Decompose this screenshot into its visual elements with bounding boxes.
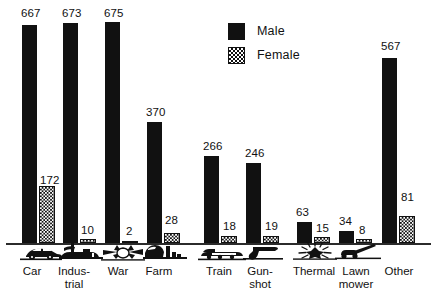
value-label-train-male: 266	[203, 141, 223, 153]
bar-industrial-male	[63, 23, 78, 243]
legend-swatch-female-icon	[228, 47, 245, 64]
bar-chart: Male Female 667 172 Car 673 10	[0, 0, 437, 302]
bar-thermal-male	[297, 222, 312, 243]
value-label-war-female: 2	[126, 226, 133, 238]
flash-burst-icon	[293, 242, 337, 261]
value-label-farm-female: 28	[165, 215, 178, 227]
category-label-other: Other	[377, 265, 421, 278]
value-label-lawnmower-male: 34	[339, 216, 352, 228]
bar-train-male	[204, 156, 219, 243]
legend-swatch-male-icon	[228, 23, 245, 40]
value-label-industrial-female: 10	[81, 225, 94, 237]
value-label-car-female: 172	[40, 175, 60, 187]
handgun-icon	[243, 243, 283, 261]
legend-label-male: Male	[257, 24, 285, 38]
category-label-train: Train	[197, 265, 241, 278]
bar-car-female	[39, 186, 55, 243]
bar-farm-female	[164, 233, 180, 243]
bar-car-male	[22, 25, 37, 243]
lawnmower-icon	[335, 243, 381, 260]
value-label-thermal-male: 63	[296, 207, 309, 219]
legend-item-male: Male	[228, 19, 300, 43]
value-label-thermal-female: 15	[316, 223, 329, 235]
bar-lawnmower-male	[339, 231, 354, 243]
value-label-gunshot-female: 19	[265, 221, 278, 233]
value-label-farm-male: 370	[146, 107, 166, 119]
bar-war-female	[122, 241, 138, 243]
car-icon	[19, 245, 63, 261]
bar-other-male	[382, 58, 397, 243]
category-label-car: Car	[12, 265, 52, 278]
chart-legend: Male Female	[228, 19, 300, 67]
factory-icon	[59, 243, 103, 261]
bar-train-female	[221, 236, 237, 243]
value-label-train-female: 18	[223, 221, 236, 233]
legend-item-female: Female	[228, 43, 300, 67]
value-label-lawnmower-female: 8	[359, 225, 366, 237]
value-label-war-male: 675	[104, 8, 124, 20]
bar-other-female	[399, 216, 415, 243]
category-label-farm: Farm	[138, 265, 180, 278]
category-label-gunshot: Gun- shot	[238, 265, 282, 290]
category-label-war: War	[98, 265, 138, 278]
bar-war-male	[105, 22, 120, 243]
barn-icon	[143, 243, 187, 261]
category-label-industrial: Indus- trial	[52, 265, 96, 290]
value-label-other-female: 81	[401, 192, 414, 204]
bar-farm-male	[147, 122, 162, 243]
bar-gunshot-male	[246, 163, 261, 243]
train-icon	[198, 245, 246, 261]
explosion-icon	[101, 244, 145, 261]
value-label-other-male: 567	[381, 41, 401, 53]
value-label-industrial-male: 673	[62, 8, 82, 20]
legend-label-female: Female	[257, 48, 300, 62]
bar-gunshot-female	[263, 236, 279, 243]
value-label-gunshot-male: 246	[245, 148, 265, 160]
category-label-lawnmower: Lawn mower	[332, 265, 380, 290]
value-label-car-male: 667	[21, 8, 41, 20]
